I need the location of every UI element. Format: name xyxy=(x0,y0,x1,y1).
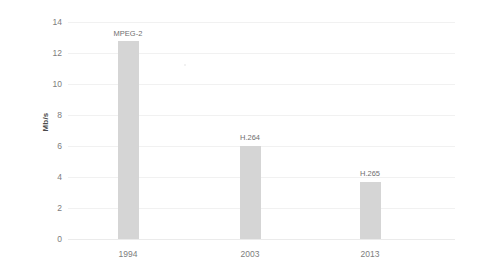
y-tick-label: 8 xyxy=(36,110,62,120)
y-tick-label: 0 xyxy=(36,234,62,244)
y-tick-label: 14 xyxy=(36,17,62,27)
y-tick-label: 4 xyxy=(36,172,62,182)
x-tick-label-2013: 2013 xyxy=(330,248,410,260)
y-axis-tick-labels: 14 12 10 8 6 4 2 0 xyxy=(36,0,62,274)
bar-2013[interactable] xyxy=(360,182,381,239)
x-tick-label-2003: 2003 xyxy=(210,248,290,260)
bar-1994[interactable] xyxy=(118,41,139,239)
x-axis-tick-labels: 1994 2003 2013 xyxy=(0,248,477,262)
gridline-14 xyxy=(68,22,455,23)
y-tick-label: 6 xyxy=(36,141,62,151)
bar-value-label-2003: H.264 xyxy=(215,133,285,143)
x-tick-label-1994: 1994 xyxy=(88,248,168,260)
bar-value-label-1994: MPEG-2 xyxy=(93,29,163,39)
bar-2003[interactable] xyxy=(240,146,261,239)
speck-artifact xyxy=(184,64,186,66)
bar-value-label-2013: H.265 xyxy=(335,169,405,179)
y-tick-label: 12 xyxy=(36,48,62,58)
y-tick-label: 10 xyxy=(36,79,62,89)
y-tick-label: 2 xyxy=(36,203,62,213)
plot-area: MPEG-2 H.264 H.265 xyxy=(68,22,455,239)
bar-chart: Mb/s 14 12 10 8 6 4 2 0 MPEG-2 H.264 H.2… xyxy=(0,0,477,274)
gridline-0-baseline xyxy=(68,239,455,240)
